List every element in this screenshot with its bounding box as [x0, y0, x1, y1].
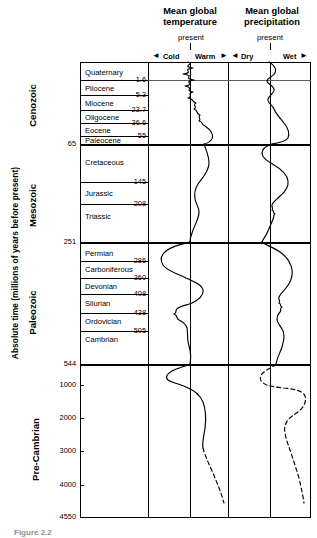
era-label-mesozoic: Mesozoic — [27, 170, 38, 242]
era-label-cenozoic: Cenozoic — [27, 70, 38, 142]
period-age-505: 505 — [118, 326, 146, 335]
precambrian-age-3000: 3000 — [44, 446, 76, 455]
column-title-temperature: Mean global temperature — [152, 6, 228, 28]
precambrian-tick-2000 — [80, 418, 84, 419]
temperature-curve-solid — [183, 62, 213, 144]
period-label-permian: Permian — [85, 249, 113, 258]
precambrian-age-4550: 4550 — [44, 512, 76, 521]
y-axis-label: Absolute time (millions of years before … — [10, 98, 20, 428]
reference-line-temperature — [190, 62, 191, 518]
wet-arrow-icon: ► — [300, 52, 308, 60]
period-label-cambrian: Cambrian — [85, 335, 118, 344]
frame-temp-panel-left — [148, 365, 149, 518]
period-label-miocene: Miocene — [85, 99, 114, 108]
era-age-251: 251 — [48, 237, 76, 246]
period-age-1-6: 1.6 — [118, 75, 146, 84]
temperature-curve-paleozoic — [161, 242, 203, 364]
period-age-438: 438 — [118, 308, 146, 317]
precipitation-curve-paleozoic — [262, 242, 292, 364]
period-age-360: 360 — [118, 273, 146, 282]
present-label-precipitation: present — [235, 33, 305, 42]
precambrian-tick-3000 — [80, 451, 84, 452]
era-label-precambrian: Pre-Cambrian — [30, 405, 41, 495]
era-label-paleozoic: Paleozoic — [27, 277, 38, 349]
frame-bottom — [80, 517, 311, 518]
period-label-eocene: Eocene — [85, 126, 111, 135]
period-label-devonian: Devonian — [85, 282, 117, 291]
era-age-544: 544 — [48, 359, 76, 368]
era-boundary-mesozoic-paleozoic — [80, 242, 311, 244]
precipitation-curve-precambrian-dashed — [260, 364, 305, 503]
era-boundary-paleozoic-precambrian — [80, 364, 311, 366]
cold-label: Cold — [163, 52, 179, 61]
period-age-55: 55 — [118, 131, 146, 140]
era-age-65: 65 — [52, 139, 76, 148]
warm-arrow-icon: ► — [220, 52, 228, 60]
period-age-36-6: 36.6 — [114, 118, 146, 127]
warm-label: Warm — [195, 52, 215, 61]
precambrian-age-1000: 1000 — [44, 380, 76, 389]
period-label-cretaceous: Cretaceous — [85, 158, 124, 167]
frame-period-box-right — [148, 62, 149, 365]
present-tick-temperature — [190, 43, 191, 50]
wet-label: Wet — [283, 52, 296, 61]
present-label-temperature: present — [156, 33, 226, 42]
figure-caption: Figure 2.2 — [14, 528, 52, 537]
gridline-1-6 — [148, 80, 311, 81]
column-title-precipitation-line1: Mean global — [245, 6, 299, 16]
column-title-precipitation-line2: precipitation — [244, 17, 300, 27]
temperature-curve-mesozoic — [190, 144, 209, 242]
precambrian-tick-4000 — [80, 485, 84, 486]
frame-top — [80, 62, 311, 63]
period-age-5-3: 5.3 — [118, 90, 146, 99]
period-label-paleocene: Paleocene — [85, 136, 121, 145]
temperature-curve-precambrian-dashed — [203, 448, 224, 503]
precambrian-age-4000: 4000 — [44, 480, 76, 489]
dry-arrow-icon: ◄ — [231, 52, 239, 60]
precipitation-curve-mesozoic — [262, 144, 288, 242]
frame-temp-panel-right — [228, 62, 229, 518]
geological-timescale-figure: Absolute time (millions of years before … — [0, 0, 317, 538]
present-tick-precipitation — [270, 43, 271, 50]
column-title-precipitation: Mean global precipitation — [232, 6, 312, 28]
precambrian-age-2000: 2000 — [44, 413, 76, 422]
precambrian-tick-1000 — [80, 385, 84, 386]
cold-arrow-icon: ◄ — [152, 52, 160, 60]
frame-left-edge — [80, 62, 81, 518]
period-age-145: 145 — [118, 177, 146, 186]
period-label-silurian: Silurian — [85, 299, 110, 308]
temperature-curve-precambrian-solid — [167, 364, 206, 448]
period-age-208: 208 — [118, 199, 146, 208]
frame-precip-panel-right — [310, 62, 311, 518]
column-title-temperature-line2: temperature — [163, 17, 217, 27]
period-label-ordovician: Ordovician — [85, 317, 121, 326]
period-label-triassic: Triassic — [85, 212, 111, 221]
period-label-jurassic: Jurassic — [85, 189, 113, 198]
reference-line-precipitation — [270, 62, 271, 518]
period-label-pliocene: Pliocene — [85, 84, 114, 93]
period-age-286: 286 — [118, 256, 146, 265]
y-axis-label-container: Absolute time (millions of years before … — [0, 0, 18, 538]
dry-label: Dry — [241, 52, 253, 61]
period-age-408: 408 — [118, 289, 146, 298]
column-title-temperature-line1: Mean global — [163, 6, 217, 16]
